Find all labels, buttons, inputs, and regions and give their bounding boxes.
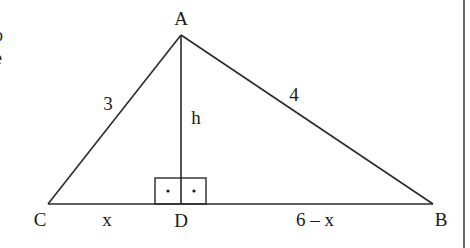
- side-label-db: 6 – x: [296, 209, 335, 230]
- right-angle-dot-right: [192, 189, 195, 192]
- vertex-label-a: A: [174, 8, 188, 29]
- cropped-text-2: e: [0, 48, 2, 68]
- vertex-label-d: D: [174, 210, 188, 231]
- side-ab: [181, 35, 433, 204]
- side-label-ab: 4: [289, 84, 299, 105]
- side-label-ac: 3: [103, 93, 113, 114]
- right-angle-dot-left: [166, 189, 169, 192]
- side-label-h: h: [191, 107, 201, 128]
- triangle-diagram: o e A B C D 3 4 h x 6 – x: [0, 0, 470, 248]
- side-label-cd: x: [102, 209, 112, 230]
- cropped-text-1: o: [0, 25, 3, 45]
- vertex-label-b: B: [435, 209, 448, 230]
- vertex-label-c: C: [34, 209, 47, 230]
